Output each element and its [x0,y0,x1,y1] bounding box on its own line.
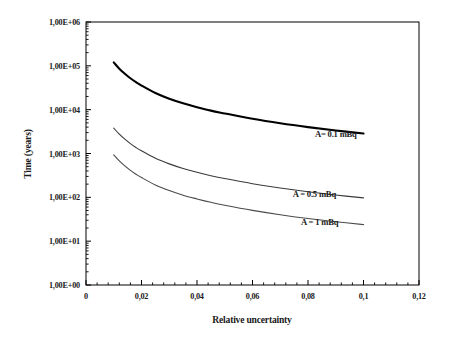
series-label-0: A= 0.1 mBq [315,129,357,139]
series-curve-0 [114,62,364,133]
axis-ticks-group [86,22,419,285]
x-axis-tick-label: 0,1 [359,292,369,301]
axis-frame-group [86,22,419,285]
x-axis-tick-label: 0,04 [190,292,204,301]
chart-canvas [0,0,462,343]
chart-figure: 1,00E+001,00E+011,00E+021,00E+031,00E+04… [0,0,462,343]
y-axis-tick-label: 1,00E+01 [20,237,80,246]
x-axis-tick-label: 0 [84,292,88,301]
x-axis-title: Relative uncertainty [212,314,291,325]
y-axis-tick-label: 1,00E+04 [20,105,80,114]
y-axis-tick-label: 1,00E+00 [20,281,80,290]
y-axis-title: Time (years) [22,129,33,178]
x-axis-tick-label: 0,02 [135,292,149,301]
x-axis-tick-label: 0,08 [301,292,315,301]
series-label-1: A = 0.5 mBq [293,189,336,199]
series-label-2: A = 1 mBq [301,217,338,227]
y-axis-tick-label: 1,00E+05 [20,61,80,70]
x-axis-tick-label: 0,12 [412,292,426,301]
x-axis-tick-label: 0,06 [246,292,260,301]
data-series-group [114,62,364,224]
y-axis-tick-label: 1,00E+02 [20,193,80,202]
y-axis-tick-label: 1,00E+06 [20,18,80,27]
